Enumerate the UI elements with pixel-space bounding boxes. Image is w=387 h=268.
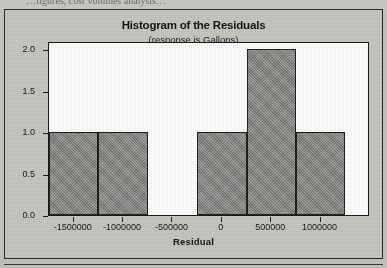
scan-artifact-strip: …figures, cost volumes analysis…	[0, 0, 387, 9]
x-axis-tick-label: -1500000	[54, 222, 92, 232]
x-axis-tick-label: -500000	[155, 222, 188, 232]
x-axis-tick-label: 1000000	[302, 222, 337, 232]
y-axis-tick-label: 1.5	[22, 86, 35, 96]
y-axis-tick-label: 1.0	[22, 127, 35, 137]
histogram-bar	[296, 132, 345, 215]
y-axis-tick-label: 0.5	[22, 169, 35, 179]
histogram-bar	[98, 132, 147, 215]
scanned-page: …figures, cost volumes analysis… Histogr…	[0, 0, 387, 268]
x-axis-tick-label: 0	[218, 222, 223, 232]
histogram-figure: Histogram of the Residuals (response is …	[4, 9, 383, 259]
plot-area	[48, 42, 369, 216]
page-divider-rule	[4, 264, 383, 265]
x-axis-title: Residual	[5, 236, 382, 247]
histogram-bar	[247, 49, 296, 215]
scan-artifact-text: …figures, cost volumes analysis…	[26, 0, 166, 6]
histogram-bar	[197, 132, 246, 215]
histogram-bar	[49, 132, 98, 215]
y-axis-tick-label: 2.0	[22, 44, 35, 54]
y-axis-tick	[43, 216, 48, 217]
chart-title: Histogram of the Residuals	[5, 19, 382, 31]
x-axis-tick-label: -1000000	[103, 222, 141, 232]
y-axis-tick-label: 0.0	[22, 210, 35, 220]
x-axis-tick-label: 500000	[255, 222, 285, 232]
